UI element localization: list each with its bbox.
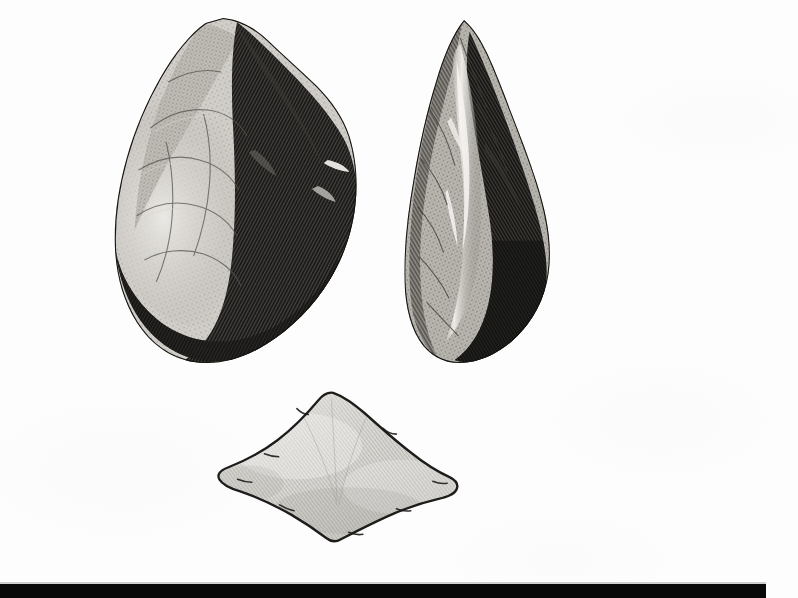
plate-caption <box>0 0 1 1</box>
figure-ovate-handaxe-edge-view: Same handaxe seen edge-on, pointed apex,… <box>395 12 563 378</box>
plate-subject: Three chipped flint implements <box>0 0 1 1</box>
figure-3-description: Low flat lozenge-shaped flint flake with… <box>205 550 206 551</box>
figure-ovate-handaxe-face-view: Pear-shaped bifacial flint handaxe, face… <box>107 10 373 378</box>
figure-2-description: Same handaxe seen edge-on, pointed apex,… <box>395 378 396 379</box>
figure-flint-flake-blade: Low flat lozenge-shaped flint flake with… <box>205 385 473 550</box>
scanned-plate-page: Pear-shaped bifacial flint handaxe, face… <box>0 0 798 598</box>
figure-1-description: Pear-shaped bifacial flint handaxe, face… <box>107 378 108 379</box>
page-edge-black-bar <box>0 584 766 598</box>
